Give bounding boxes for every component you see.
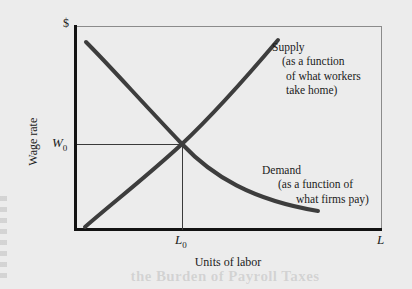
supply-annotation-line-2: (as a function: [272, 54, 361, 68]
equilibrium-wage-label: W0: [52, 136, 67, 153]
y-axis-currency-marker: $: [63, 17, 69, 30]
l0-subscript: 0: [182, 240, 187, 250]
supply-annotation-line-1: Supply: [272, 40, 361, 54]
supply-annotation-line-4: take home): [272, 83, 361, 97]
supply-annotation-line-3: of what workers: [272, 69, 361, 83]
w0-subscript: 0: [63, 143, 68, 153]
demand-annotation-line-3: what firms pay): [262, 192, 369, 206]
w0-base: W: [52, 135, 63, 150]
figure-container: the Burden of Payroll Taxes $ W0 L0 L Wa…: [0, 0, 412, 289]
demand-annotation-line-1: Demand: [262, 163, 369, 177]
x-axis-end-marker: L: [377, 233, 384, 248]
x-axis-title: Units of labor: [128, 256, 328, 269]
equilibrium-labor-label: L0: [175, 233, 187, 250]
supply-curve: [85, 40, 278, 227]
demand-annotation: Demand (as a function of what firms pay): [262, 163, 369, 206]
supply-annotation: Supply (as a function of what workers ta…: [272, 40, 361, 97]
demand-annotation-line-2: (as a function of: [262, 177, 369, 191]
y-axis-title: Wage rate: [27, 92, 40, 192]
